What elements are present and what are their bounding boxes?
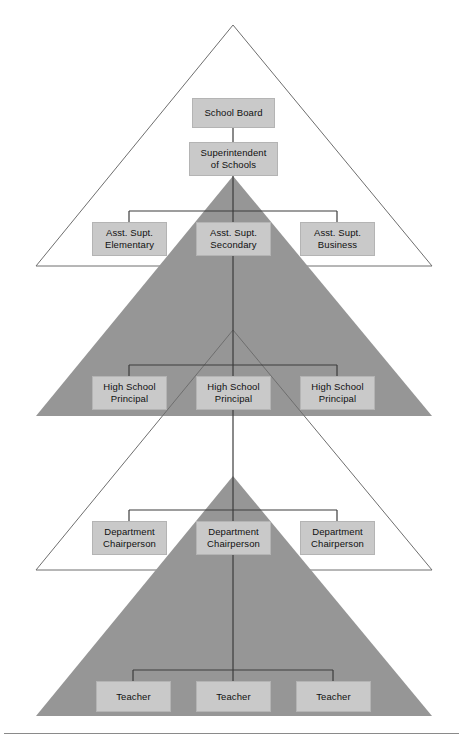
org-node-teacher-3[interactable]: Teacher bbox=[296, 681, 371, 712]
org-node-department-chairperson-1[interactable]: Department Chairperson bbox=[92, 521, 167, 555]
org-node-asst-supt-business[interactable]: Asst. Supt. Business bbox=[300, 222, 375, 256]
org-node-school-board[interactable]: School Board bbox=[192, 98, 275, 128]
org-node-label: School Board bbox=[204, 107, 262, 119]
org-node-label: High School Principal bbox=[103, 381, 155, 405]
org-node-label: Department Chairperson bbox=[311, 526, 364, 550]
triangles-group bbox=[36, 25, 432, 716]
org-node-asst-supt-secondary[interactable]: Asst. Supt. Secondary bbox=[196, 222, 271, 256]
org-node-department-chairperson-2[interactable]: Department Chairperson bbox=[196, 521, 271, 555]
org-node-label: Department Chairperson bbox=[207, 526, 260, 550]
org-node-label: Teacher bbox=[316, 691, 351, 703]
org-node-high-school-principal-1[interactable]: High School Principal bbox=[92, 376, 167, 410]
org-node-teacher-2[interactable]: Teacher bbox=[196, 681, 271, 712]
org-node-label: Department Chairperson bbox=[103, 526, 156, 550]
org-node-label: Teacher bbox=[216, 691, 251, 703]
org-node-label: Teacher bbox=[116, 691, 151, 703]
org-node-superintendent-of-schools[interactable]: Superintendent of Schools bbox=[189, 142, 278, 176]
org-node-label: Asst. Supt. Secondary bbox=[210, 227, 257, 251]
org-node-teacher-1[interactable]: Teacher bbox=[96, 681, 171, 712]
org-node-high-school-principal-3[interactable]: High School Principal bbox=[300, 376, 375, 410]
org-node-label: Asst. Supt. Business bbox=[314, 227, 361, 251]
org-node-department-chairperson-3[interactable]: Department Chairperson bbox=[300, 521, 375, 555]
org-node-high-school-principal-2[interactable]: High School Principal bbox=[196, 376, 271, 410]
triangle-level-4-shaded bbox=[36, 476, 432, 716]
org-node-label: Superintendent of Schools bbox=[201, 147, 267, 171]
org-node-asst-supt-elementary[interactable]: Asst. Supt. Elementary bbox=[92, 222, 167, 256]
diagram-page: School BoardSuperintendent of SchoolsAss… bbox=[0, 0, 463, 748]
org-node-label: Asst. Supt. Elementary bbox=[105, 227, 154, 251]
org-node-label: High School Principal bbox=[311, 381, 363, 405]
org-node-label: High School Principal bbox=[207, 381, 259, 405]
footer-rule bbox=[4, 733, 459, 734]
